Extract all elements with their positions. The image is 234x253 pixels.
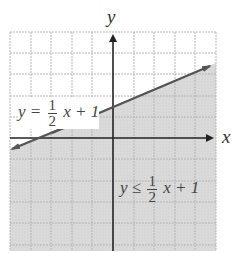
- denominator: 2: [48, 114, 58, 129]
- fraction: 1 2: [147, 174, 157, 205]
- ineq-rhs: x + 1: [163, 178, 199, 197]
- line-equation-label: y = 1 2 x + 1: [18, 98, 99, 129]
- y-axis-label: y: [107, 6, 115, 28]
- fraction: 1 2: [48, 98, 58, 129]
- line-eq-rhs: x + 1: [63, 102, 99, 121]
- ineq-lhs: y ≤: [120, 178, 141, 197]
- line-eq-lhs: y =: [18, 102, 41, 121]
- inequality-label: y ≤ 1 2 x + 1: [120, 174, 199, 205]
- x-axis-label: x: [222, 126, 230, 148]
- denominator: 2: [147, 190, 157, 205]
- numerator: 1: [147, 174, 157, 190]
- numerator: 1: [48, 98, 58, 114]
